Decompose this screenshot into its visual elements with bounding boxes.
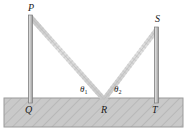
- pole-right-body: [155, 27, 159, 103]
- rope-right-edge: [104, 30, 157, 100]
- angle-1-subscript: 1: [84, 89, 87, 95]
- label-point-p: P: [28, 3, 34, 13]
- geometry-figure: P Q R S T θ1 θ2: [0, 0, 190, 132]
- label-angle-theta-1: θ1: [80, 85, 87, 94]
- pole-right: [155, 27, 159, 103]
- angle-2-subscript: 2: [118, 89, 121, 95]
- label-point-r: R: [101, 105, 107, 115]
- pole-left-body: [29, 15, 33, 103]
- label-point-s: S: [155, 14, 160, 24]
- rope-segment-group: [31, 17, 157, 100]
- label-angle-theta-2: θ2: [114, 85, 121, 94]
- label-point-t: T: [152, 105, 158, 115]
- label-point-q: Q: [25, 105, 32, 115]
- rope-path: [31, 17, 157, 100]
- pole-left: [29, 15, 33, 103]
- rope-left-edge: [31, 17, 105, 100]
